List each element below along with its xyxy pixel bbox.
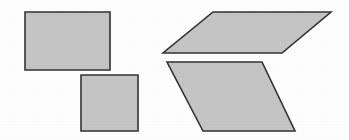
shape-rectangle-small xyxy=(81,75,138,131)
shapes-svg: Geometric shapes figure Four filled quad… xyxy=(0,0,349,140)
shape-rectangle-large xyxy=(25,12,110,70)
figure-canvas: Geometric shapes figure Four filled quad… xyxy=(0,0,349,140)
